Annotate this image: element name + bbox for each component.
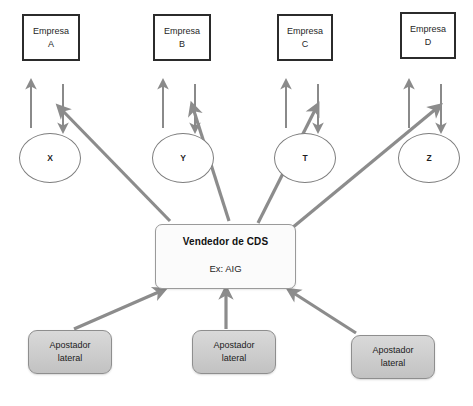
node-y-label: Y [180, 153, 186, 163]
company-b-line1: Empresa [164, 25, 200, 37]
company-d-line2: D [425, 36, 432, 48]
cds-subtitle: Ex: AIG [209, 263, 241, 274]
arrow-bettor-right-to-cds [292, 292, 356, 333]
diagram-canvas: Empresa A Empresa B Empresa C Empresa D … [0, 0, 473, 406]
bettor-right-line1: Apostador [372, 344, 413, 357]
thin-arrow-pair-d [409, 84, 441, 128]
node-ellipse-t[interactable]: T [274, 133, 336, 183]
company-a-line1: Empresa [33, 25, 69, 37]
company-box-b[interactable]: Empresa B [153, 14, 211, 61]
bettor-left-line1: Apostador [49, 339, 90, 352]
company-a-line2: A [48, 38, 54, 50]
company-box-d[interactable]: Empresa D [400, 12, 456, 59]
bettor-left-line2: lateral [58, 352, 83, 365]
node-x-label: X [47, 153, 53, 163]
company-c-line2: C [302, 38, 309, 50]
cds-title: Vendedor de CDS [183, 236, 268, 247]
bettor-middle-line1: Apostador [213, 339, 254, 352]
thin-arrow-pair-b [163, 84, 195, 128]
node-ellipse-z[interactable]: Z [398, 133, 460, 183]
company-box-c[interactable]: Empresa C [277, 14, 333, 61]
company-b-line2: B [179, 38, 185, 50]
company-d-line1: Empresa [410, 23, 446, 35]
node-ellipse-x[interactable]: X [19, 133, 81, 183]
node-ellipse-y[interactable]: Y [152, 133, 214, 183]
bettor-box-right[interactable]: Apostador lateral [351, 335, 435, 379]
bettor-middle-line2: lateral [222, 352, 247, 365]
bettor-box-left[interactable]: Apostador lateral [28, 330, 112, 374]
bettor-right-line2: lateral [381, 357, 406, 370]
cds-seller-box[interactable]: Vendedor de CDS Ex: AIG [155, 224, 296, 289]
company-box-a[interactable]: Empresa A [22, 14, 80, 61]
arrow-bettor-left-to-cds [74, 291, 161, 329]
thin-arrow-pair-c [286, 84, 318, 128]
node-t-label: T [302, 153, 307, 163]
node-z-label: Z [426, 153, 431, 163]
thin-arrow-pair-a [31, 84, 63, 128]
company-c-line1: Empresa [287, 25, 323, 37]
bettor-box-middle[interactable]: Apostador lateral [192, 330, 276, 374]
